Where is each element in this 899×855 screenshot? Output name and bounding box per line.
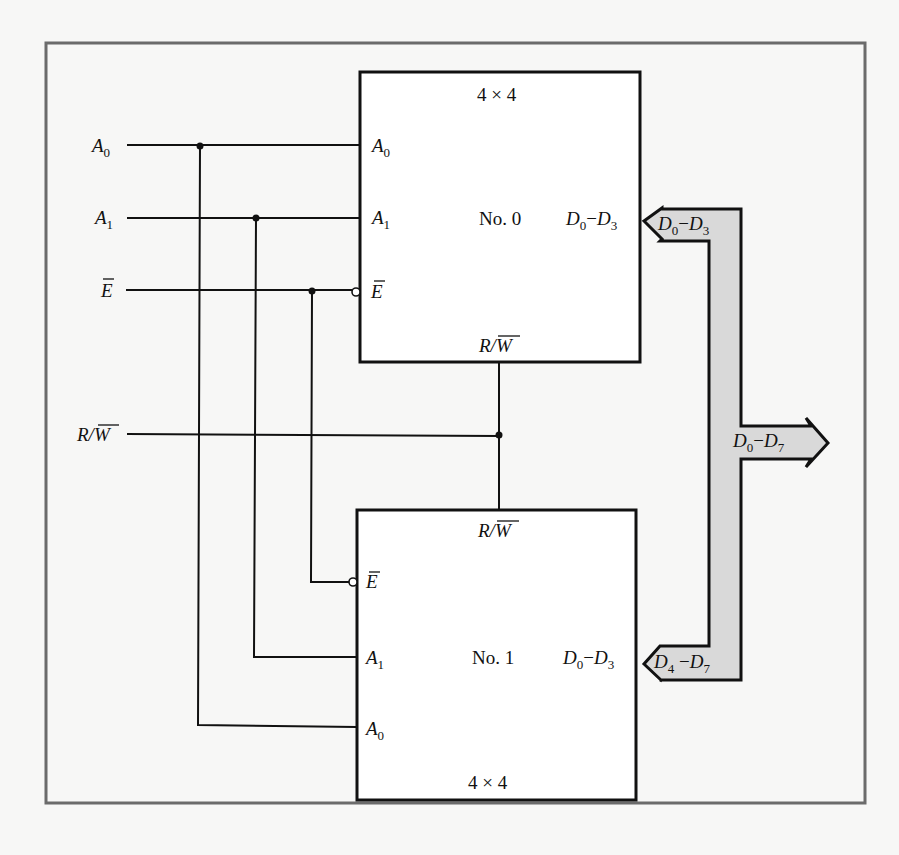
input-label-enable: E bbox=[100, 280, 113, 301]
chip-1-name: No. 1 bbox=[472, 647, 514, 668]
input-label-a1: A1 bbox=[93, 207, 113, 232]
chip-0-pin-enable: E bbox=[370, 281, 383, 302]
chip-1-pin-enable: E bbox=[365, 571, 378, 592]
chip-0-pin-read-write: R/W bbox=[478, 335, 514, 356]
chip-0-size: 4 × 4 bbox=[477, 84, 517, 105]
chip-1-enable-bubble bbox=[349, 578, 357, 586]
chip-0-name: No. 0 bbox=[479, 208, 521, 229]
memory-expansion-diagram: A0 A1 E R/W 4 × 4 A0 A1 E No. 0 D0−D3 R/… bbox=[0, 0, 899, 855]
chip-1-pin-read-write: R/W bbox=[477, 520, 513, 541]
input-label-read-write: R/W bbox=[76, 424, 112, 445]
chip-0-enable-bubble bbox=[352, 288, 360, 296]
chip-1-size: 4 × 4 bbox=[468, 772, 508, 793]
input-label-a0: A0 bbox=[90, 135, 110, 160]
